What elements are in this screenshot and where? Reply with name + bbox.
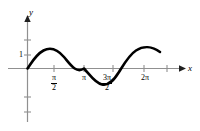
fraction-numerator: π — [51, 74, 57, 82]
x-tick-label-3pi-over-2: 3π 2 — [97, 74, 117, 92]
fraction-pi-over-2: π 2 — [51, 74, 57, 92]
x-tick-label-pi: π — [77, 74, 91, 82]
x-tick-label-2pi: 2π — [136, 74, 154, 82]
fraction-numerator: 3π — [102, 74, 112, 82]
x-tick-label-pi-over-2: π 2 — [46, 74, 62, 92]
fraction-denominator: 2 — [102, 84, 112, 92]
x-axis-label: x — [188, 64, 192, 73]
sine-curve-figure: y x 1 π 2 π 3π 2 2π — [0, 0, 200, 131]
fraction-3pi-over-2: 3π 2 — [102, 74, 112, 92]
x-axis-arrowhead — [179, 65, 186, 71]
fraction-denominator: 2 — [51, 84, 57, 92]
y-tick-label-one: 1 — [19, 51, 23, 59]
y-axis-label: y — [29, 8, 33, 17]
plot-canvas — [0, 0, 200, 131]
